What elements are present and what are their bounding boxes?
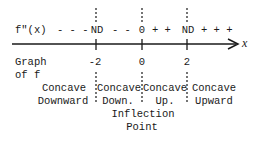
sign-dashes-mid: - -	[112, 24, 131, 36]
x-axis-label: x	[242, 37, 247, 49]
interval-2-line2: Down.	[102, 95, 134, 107]
sign-dashes-left: - - -	[57, 24, 89, 36]
interval-1-line1: Concave	[42, 82, 86, 94]
nd-label-2: ND	[182, 24, 195, 36]
tick-label-2: 2	[184, 56, 190, 68]
inflection-label-line2: Point	[126, 121, 158, 133]
tick-label-0: 0	[139, 56, 145, 68]
graph-label-line1: Graph	[15, 56, 47, 68]
interval-3-line2: Up.	[156, 95, 175, 107]
nd-label-neg2: ND	[91, 24, 104, 36]
zero-label: 0	[139, 24, 145, 36]
interval-4-line1: Concave	[192, 82, 236, 94]
sign-plus-mid: + +	[152, 24, 171, 36]
tick-label-neg2: -2	[89, 56, 102, 68]
interval-2-line1: Concave	[97, 82, 141, 94]
second-derivative-label: f"(x)	[15, 24, 47, 36]
interval-3-line1: Concave	[143, 82, 187, 94]
sign-plus-right: + + +	[201, 24, 233, 36]
inflection-label-line1: Inflection	[111, 108, 174, 120]
interval-1-line2: Downward	[38, 95, 88, 107]
interval-4-line2: Upward	[195, 95, 233, 107]
graph-label-line2: of f	[15, 69, 40, 81]
